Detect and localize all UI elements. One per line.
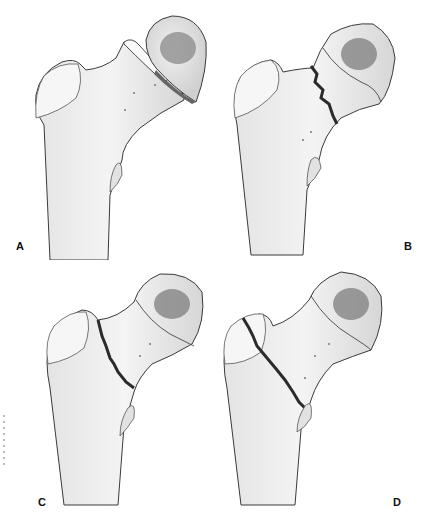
femur-illustration-c [0,260,211,520]
femoral-head-fovea [341,38,377,70]
panel-label-d: D [393,496,401,508]
panel-label-b: B [404,240,412,252]
femoral-head-fovea [154,289,190,319]
panel-d-basicervical: D [211,260,422,520]
panel-c-transcervical: C [0,260,211,520]
panel-label-c: C [38,496,46,508]
femur-illustration-a [0,0,211,260]
femoral-head-fovea [333,288,369,320]
femoral-head-fovea [160,32,196,64]
femur-illustration-d [211,260,422,520]
panel-label-a: A [16,240,24,252]
panel-a-subcapital-displaced: A [0,0,211,260]
femur-illustration-b [211,0,422,260]
margin-artifact [3,415,5,465]
panel-b-subcapital: B [211,0,422,260]
